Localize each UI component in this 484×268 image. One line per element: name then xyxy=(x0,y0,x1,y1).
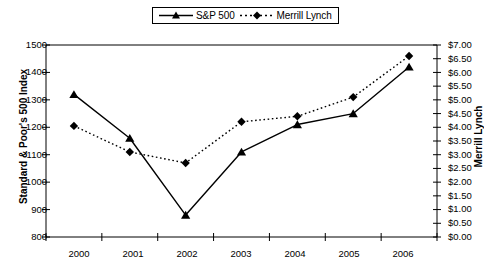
data-point-marker xyxy=(405,52,413,60)
data-point-marker xyxy=(293,112,301,120)
plot-area xyxy=(0,0,484,268)
series-line xyxy=(74,67,409,215)
data-point-marker xyxy=(126,148,134,156)
data-point-marker xyxy=(404,63,413,71)
data-point-marker xyxy=(69,90,78,98)
chart-figure: S&P 500 Merrill Lynch Standard & Poor's … xyxy=(0,0,484,268)
data-point-marker xyxy=(237,118,245,126)
data-point-marker xyxy=(70,122,78,130)
data-point-marker xyxy=(237,148,246,156)
series-sp500 xyxy=(69,63,413,219)
